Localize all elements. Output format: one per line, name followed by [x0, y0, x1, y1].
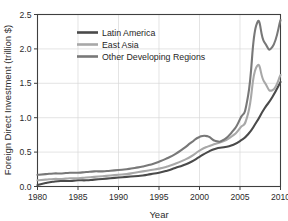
y-tick-label: 0.0	[20, 182, 32, 192]
x-tick-label: 2000	[190, 192, 209, 202]
legend-label-east-asia: East Asia	[102, 40, 139, 50]
x-tick-label: 2005	[230, 192, 249, 202]
line-chart: 0.00.51.01.52.02.5 198019851990199520002…	[0, 0, 288, 221]
x-tick-label: 1995	[149, 192, 168, 202]
y-tick-label: 1.5	[20, 78, 32, 88]
y-tick-label: 2.5	[20, 10, 32, 20]
y-axis-title: Foreign Direct Investment (trillion $)	[2, 25, 13, 175]
x-tick-label: 1985	[68, 192, 87, 202]
chart-figure: y f g 0.00.51.01.52.02.5 198019851990199…	[0, 0, 288, 221]
x-tick-label: 2010	[271, 192, 288, 202]
x-tick-label: 1980	[28, 192, 47, 202]
legend-label-other-developing-regions: Other Developing Regions	[102, 52, 206, 62]
x-tick-label: 1990	[109, 192, 128, 202]
legend-label-latin-america: Latin America	[102, 28, 155, 38]
y-tick-label: 1.0	[20, 113, 32, 123]
y-tick-label: 0.5	[20, 147, 32, 157]
x-axis-title: Year	[149, 209, 168, 220]
y-tick-label: 2.0	[20, 44, 32, 54]
